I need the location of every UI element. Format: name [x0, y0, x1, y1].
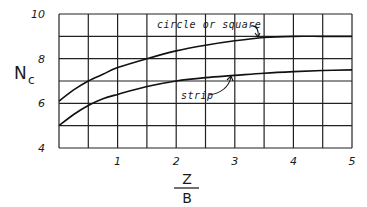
y-axis-label-subscript: c	[28, 73, 35, 87]
y-tick-label: 10	[31, 8, 45, 21]
y-axis-label-main: N	[14, 63, 27, 83]
annotation-strip: strip	[181, 90, 214, 101]
x-axis-label-denominator: B	[182, 190, 192, 206]
y-tick-label: 4	[38, 142, 45, 155]
x-tick-label: 3	[231, 155, 238, 168]
x-tick-label: 2	[173, 155, 180, 168]
x-axis-ticks: 12345	[114, 155, 355, 168]
y-tick-label: 8	[38, 53, 45, 66]
x-axis-label-numerator: Z	[182, 171, 192, 187]
x-tick-label: 1	[114, 155, 121, 168]
x-tick-label: 4	[290, 155, 297, 168]
annotation-circle-or-square: circle or square	[157, 19, 261, 30]
x-tick-label: 5	[349, 155, 356, 168]
y-tick-label: 6	[38, 97, 45, 110]
grid	[59, 14, 352, 148]
nc-chart: 46810 12345 N c Z B circle or square str…	[0, 0, 367, 207]
